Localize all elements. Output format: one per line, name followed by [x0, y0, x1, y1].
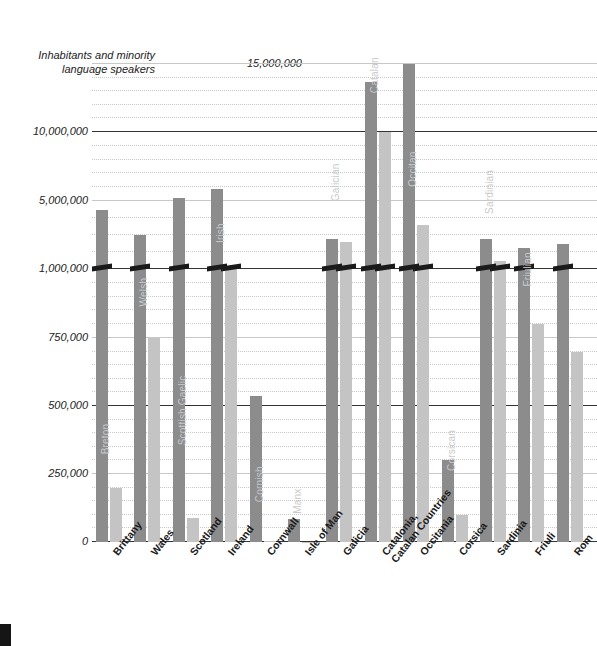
gridline	[92, 172, 597, 173]
bar-inhabitants	[403, 64, 415, 542]
bar-label-scottish-gaelic: Scottish Gaelic	[177, 375, 188, 445]
bar-label-corsican: Corsican	[446, 430, 457, 471]
y-axis-tick-250000: 250,000	[48, 467, 88, 479]
bar-speakers	[148, 338, 160, 542]
bar-inhabitants	[365, 82, 377, 542]
y-axis-tick-labels: 15,000,00010,000,0005,000,0001,000,00075…	[0, 60, 88, 542]
gridline	[92, 131, 597, 132]
bar-speakers	[532, 324, 544, 542]
bar-label-irish: Irish	[215, 223, 226, 243]
y-axis-tick-1000000: 1,000,000	[39, 262, 88, 274]
y-axis-tick-750000: 750,000	[48, 331, 88, 343]
bar-label-catalan: Catalan	[369, 57, 380, 93]
chart-root: Inhabitants and minority language speake…	[0, 0, 597, 646]
gridline	[92, 200, 597, 201]
bar-inhabitants	[96, 210, 108, 543]
plot-area: BretonWelshScottish GaelicIrishCornishMa…	[92, 60, 597, 542]
bar-speakers	[379, 132, 391, 542]
bar-inhabitants	[518, 248, 530, 542]
gridline	[92, 217, 597, 218]
bar-inhabitants	[480, 239, 492, 542]
bar-label-welsh: Welsh	[138, 278, 149, 307]
bar-label-sardinian: Sardinian	[484, 169, 495, 213]
bar-label-manx: Manx	[292, 488, 303, 513]
bar-label-friulian: Friulian	[522, 252, 533, 286]
y-axis-tick-0: 0	[82, 535, 88, 547]
gridline	[92, 159, 597, 160]
gridline	[92, 63, 597, 64]
gridline	[92, 90, 597, 91]
bar-label-breton: Breton	[100, 423, 111, 454]
gridline	[92, 77, 597, 78]
bar-inhabitants	[326, 239, 338, 542]
bar-speakers	[340, 242, 352, 542]
y-axis-tick-5000000: 5,000,000	[39, 194, 88, 206]
bar-inhabitants	[557, 244, 569, 543]
gridline	[92, 145, 597, 146]
gridline	[92, 234, 597, 235]
y-axis-tick-10000000: 10,000,000	[33, 125, 88, 137]
bar-speakers	[225, 266, 237, 542]
bar-label-galician: Galician	[330, 163, 341, 201]
bar-speakers	[110, 488, 122, 542]
bar-label-occitan: Occitan	[407, 151, 418, 186]
bar-speakers	[571, 352, 583, 542]
gridline	[92, 117, 597, 118]
bar-speakers	[494, 261, 506, 543]
bar-inhabitants	[173, 198, 185, 542]
bar-label-cornish: Cornish	[254, 466, 265, 502]
gridline	[92, 186, 597, 187]
page-corner-marker	[0, 624, 11, 646]
y-axis-tick-500000: 500,000	[48, 399, 88, 411]
gridline	[92, 104, 597, 105]
